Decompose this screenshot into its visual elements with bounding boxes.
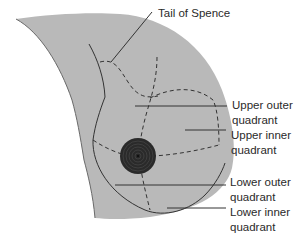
label-upper-outer-line1: Upper outer	[232, 98, 293, 113]
label-upper-inner-quadrant: Upper inner quadrant	[231, 128, 291, 158]
label-lower-outer-quadrant: Lower outer quadrant	[230, 175, 291, 205]
label-lower-inner-line1: Lower inner	[230, 205, 290, 220]
label-tail-line1: Tail of Spence	[158, 6, 230, 21]
label-upper-outer-quadrant: Upper outer quadrant	[232, 98, 293, 128]
label-lower-outer-line1: Lower outer	[230, 175, 291, 190]
label-tail-of-spence: Tail of Spence	[158, 6, 230, 21]
label-upper-inner-line2: quadrant	[231, 143, 291, 158]
areola-nipple	[120, 138, 156, 174]
label-upper-inner-line1: Upper inner	[231, 128, 291, 143]
breast-silhouette	[16, 13, 234, 219]
label-lower-outer-line2: quadrant	[230, 190, 291, 205]
label-lower-inner-line2: quadrant	[230, 220, 290, 235]
label-upper-outer-line2: quadrant	[232, 113, 293, 128]
label-lower-inner-quadrant: Lower inner quadrant	[230, 205, 290, 235]
